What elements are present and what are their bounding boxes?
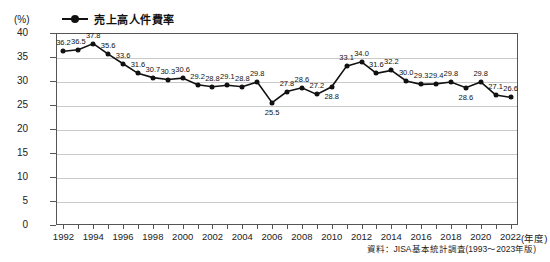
data-point-marker <box>76 47 81 52</box>
data-point-marker <box>165 77 170 82</box>
data-point-label: 29.8 <box>468 69 494 78</box>
data-point-label: 29.8 <box>438 69 464 78</box>
data-point-label: 29.8 <box>244 69 270 78</box>
data-point-label: 28.6 <box>453 93 479 102</box>
data-point-marker <box>270 100 275 105</box>
data-point-marker <box>344 64 349 69</box>
data-point-label: 35.6 <box>95 41 121 50</box>
chart-container: (%) 売上高人件費率 4035302520151050199219941996… <box>0 0 550 262</box>
data-point-marker <box>419 82 424 87</box>
data-point-label: 28.8 <box>319 92 345 101</box>
data-point-marker <box>255 79 260 84</box>
data-point-label: 34.0 <box>349 49 375 58</box>
source-note: 資料：JISA基本統計調査(1993～2023年版) <box>367 242 536 254</box>
data-point-label: 25.5 <box>259 108 285 117</box>
data-point-marker <box>210 84 215 89</box>
data-point-marker <box>285 89 290 94</box>
data-point-marker <box>374 71 379 76</box>
data-point-marker <box>195 82 200 87</box>
data-point-marker <box>434 81 439 86</box>
data-point-marker <box>508 95 513 100</box>
data-point-marker <box>448 79 453 84</box>
data-point-label: 32.2 <box>378 57 404 66</box>
data-point-marker <box>240 84 245 89</box>
data-point-marker <box>225 83 230 88</box>
data-point-marker <box>329 84 334 89</box>
data-point-label: 26.6 <box>498 84 524 93</box>
data-point-marker <box>463 85 468 90</box>
data-point-label: 27.2 <box>304 81 330 90</box>
data-point-marker <box>61 49 66 54</box>
data-point-label: 33.6 <box>110 51 136 60</box>
data-point-label: 37.8 <box>80 31 106 40</box>
data-point-marker <box>150 75 155 80</box>
